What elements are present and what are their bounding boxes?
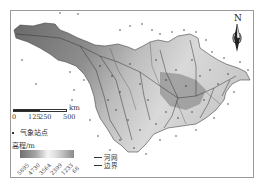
line-legend: 河网 边界 <box>94 153 118 169</box>
legend-boundary: 边界 <box>94 161 118 169</box>
legend-boundary-label: 边界 <box>104 160 118 170</box>
station-legend-label: 气象站点 <box>20 129 48 137</box>
scale-bar <box>13 109 67 112</box>
station-dot-icon <box>12 132 14 134</box>
boundary-line-icon <box>94 165 102 166</box>
station-legend: 气象站点 <box>12 127 48 137</box>
elevation-color-ramp <box>20 150 74 158</box>
elevation-ticks: 5895 4730 3564 2399 1233 68 <box>14 160 84 176</box>
river-line-icon <box>94 157 102 158</box>
scale-tick: 250 <box>39 113 51 121</box>
elevation-title: 高程/m <box>12 140 35 150</box>
scale-unit: km <box>69 104 80 112</box>
scale-tick: 500 <box>63 113 75 121</box>
north-arrow: N <box>228 14 250 54</box>
compass-icon <box>228 22 250 58</box>
scale-tick: 0 <box>12 113 16 121</box>
